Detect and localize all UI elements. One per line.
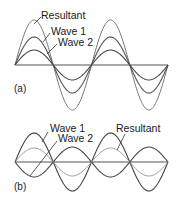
label-resultant: Resultant xyxy=(116,122,160,134)
label-wave-2: Wave 2 xyxy=(58,132,93,144)
leader-line xyxy=(30,141,57,176)
leader-line xyxy=(42,132,48,142)
interference-diagram: Resultant Wave 1 Wave 2 (a) Wave 1 Wave … xyxy=(0,0,179,201)
label-resultant: Resultant xyxy=(41,9,85,21)
panel-constructive-interference: Resultant Wave 1 Wave 2 (a) xyxy=(14,9,168,110)
panel-destructive-interference: Wave 1 Wave 2 Resultant (b) xyxy=(14,122,168,192)
panel-label-b: (b) xyxy=(14,181,26,192)
label-wave-2: Wave 2 xyxy=(58,36,93,48)
panel-label-a: (a) xyxy=(14,83,26,94)
